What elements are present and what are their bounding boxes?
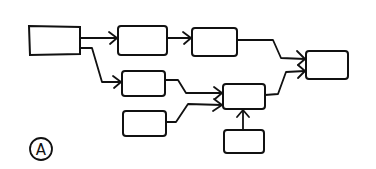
node-branch-lower (123, 111, 166, 136)
node-start (29, 26, 80, 55)
node-bottom-input (224, 130, 264, 153)
node-top-right (192, 28, 237, 56)
edge-top-right-to-end (237, 40, 305, 65)
edge-bottom-input-to-merge (237, 110, 249, 130)
edge-top-middle-to-top-right (167, 32, 191, 44)
edge-branch-lower-to-merge (166, 99, 222, 122)
edge-merge-to-end (265, 65, 305, 95)
diagram-label-text: A (36, 141, 47, 159)
edge-branch-upper-to-merge (165, 80, 222, 99)
edge-start-to-branch-upper (80, 48, 121, 88)
edge-start-to-top-middle (80, 32, 117, 44)
node-merge (223, 84, 265, 109)
node-end (306, 51, 348, 79)
node-top-middle (118, 26, 167, 55)
diagram-label: A (30, 138, 52, 160)
flow-diagram: A (0, 0, 376, 169)
node-branch-upper (122, 71, 165, 96)
